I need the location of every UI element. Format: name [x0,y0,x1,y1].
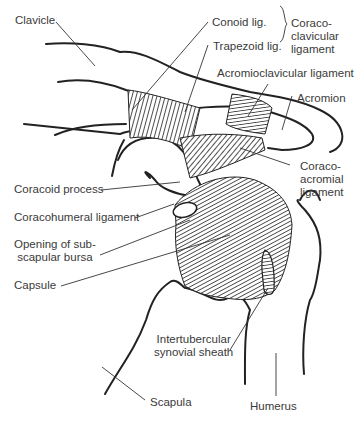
label-acromion: Acromion [297,92,346,105]
coracoacromial-ligament [180,134,265,178]
label-intertubercular-sheath: Intertubercular synovial sheath [154,333,233,359]
label-coracoid-process: Coracoid process [14,183,103,196]
label-coracohumeral-ligament: Coracohumeral ligament [14,211,139,224]
label-coracoacromial-ligament: Coraco- acromial ligament [300,160,343,199]
label-capsule: Capsule [14,279,56,292]
label-trapezoid-ligament: Trapezoid lig. [213,40,282,53]
label-conoid-ligament: Conoid lig. [212,16,266,29]
label-humerus: Humerus [250,400,297,413]
label-scapula: Scapula [150,396,192,409]
acromion-outline [268,112,313,150]
label-clavicle: Clavicle [15,14,55,27]
label-coracoclavicular-ligament: Coraco- clavicular ligament [291,17,339,56]
label-acromioclavicular-ligament: Acromioclavicular ligament [217,67,354,80]
label-subscapular-bursa: Opening of sub- scapular bursa [14,238,96,264]
